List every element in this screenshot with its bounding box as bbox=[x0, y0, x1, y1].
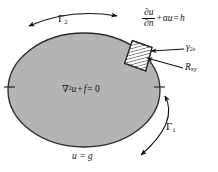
region-subscript: xy bbox=[191, 66, 197, 72]
gamma-2e-leader-arrow-icon bbox=[151, 49, 184, 51]
element-gamma-subscript: 2e bbox=[190, 46, 196, 52]
dirichlet-condition-label: u = g bbox=[72, 152, 93, 162]
governing-equals-zero: = 0 bbox=[86, 84, 100, 94]
gamma2-arc-path bbox=[29, 14, 117, 26]
gamma1-boundary-label: Γ1 bbox=[166, 121, 176, 134]
robin-u-symbol: u bbox=[168, 13, 173, 23]
governing-plus-sign: + bbox=[76, 84, 83, 94]
nabla-symbol: ∇ bbox=[62, 84, 69, 94]
region-rxy-label: Rxy bbox=[185, 63, 197, 73]
robin-numerator: ∂u bbox=[142, 8, 155, 19]
normal-derivative-fraction: ∂u ∂n bbox=[142, 8, 155, 28]
element-gamma-2e-label: γ2e bbox=[186, 43, 195, 53]
robin-boundary-condition-label: ∂u ∂n +αu=h bbox=[142, 9, 185, 29]
boundary-value-problem-figure: Γ2 Γ1 ∂u ∂n +αu=h ∇2u+f= 0 u = g γ2e Rxy bbox=[0, 0, 218, 172]
governing-equation-label: ∇2u+f= 0 bbox=[62, 85, 101, 95]
figure-canvas bbox=[0, 0, 218, 172]
gamma1-subscript: 1 bbox=[172, 126, 175, 133]
gamma-2e-leader-line bbox=[151, 49, 184, 51]
robin-equals-sign: = bbox=[173, 13, 180, 23]
robin-denominator: ∂n bbox=[142, 19, 155, 29]
gamma2-subscript: 2 bbox=[64, 18, 67, 25]
gamma2-boundary-label: Γ2 bbox=[58, 13, 68, 26]
gamma2-arc-arrow-icon bbox=[29, 14, 117, 26]
robin-plus-sign: + bbox=[155, 13, 162, 23]
robin-h-symbol: h bbox=[180, 13, 185, 23]
